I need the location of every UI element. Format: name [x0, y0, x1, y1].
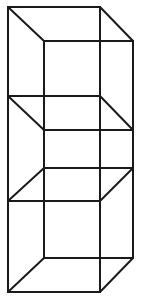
cube-edge-mid1-back-right-to-mid1-front-right: [100, 96, 133, 130]
cube-edge-top-back-left-to-top-front-left: [8, 7, 44, 41]
cube-tower-diagram: [0, 0, 146, 305]
cube-edges: [8, 7, 133, 292]
wireframe-cube-tower: [0, 0, 146, 305]
cube-edge-mid1-back-left-to-mid1-front-left: [8, 96, 44, 130]
cube-edge-mid2-front-right-to-mid2-back-right: [100, 168, 133, 201]
cube-edge-top-back-right-to-top-front-right: [100, 7, 133, 41]
cube-edge-mid2-front-left-to-mid2-back-left: [8, 168, 44, 201]
cube-edge-bottom-front-right-to-bottom-back-right: [100, 258, 133, 292]
cube-edge-bottom-front-left-to-bottom-back-left: [8, 258, 44, 292]
